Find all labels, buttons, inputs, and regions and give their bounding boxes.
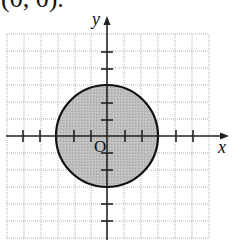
- y-axis-label: y: [90, 9, 100, 29]
- origin-label: O: [94, 137, 106, 156]
- x-axis-label: x: [217, 137, 226, 157]
- coordinate-plane: y x O: [0, 0, 236, 240]
- y-axis-arrow-icon: [104, 16, 111, 25]
